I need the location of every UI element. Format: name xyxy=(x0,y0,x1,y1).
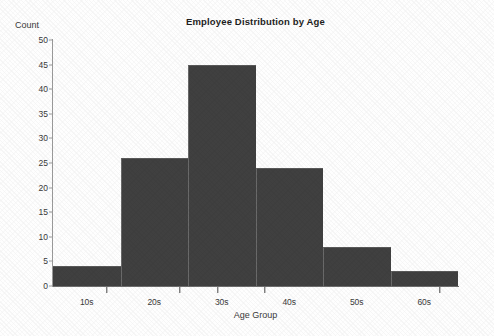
y-tick-label: 50 xyxy=(0,35,48,45)
bar-60s xyxy=(391,271,459,286)
y-tick-label: 15 xyxy=(0,207,48,217)
x-tick-label: 60s xyxy=(417,297,431,307)
bar-30s xyxy=(188,65,256,286)
y-tick-label: 45 xyxy=(0,60,48,70)
x-tick-label: 50s xyxy=(350,297,364,307)
chart-title: Employee Distribution by Age xyxy=(53,16,458,27)
x-tick-mark xyxy=(106,287,107,293)
plot-area xyxy=(53,40,458,286)
chart-figure: Employee Distribution by Age Count 05101… xyxy=(0,0,494,336)
y-tick-mark xyxy=(49,187,52,188)
y-tick-mark xyxy=(49,236,52,237)
x-tick-label: 10s xyxy=(80,297,94,307)
x-axis-label: Age Group xyxy=(53,310,458,320)
y-tick-label: 30 xyxy=(0,133,48,143)
bar-10s xyxy=(53,266,121,286)
y-tick-label: 0 xyxy=(0,281,48,291)
x-tick-mark xyxy=(179,287,180,293)
y-tick-label: 20 xyxy=(0,183,48,193)
x-tick-label: 30s xyxy=(215,297,229,307)
bar-20s xyxy=(121,158,189,286)
x-tick-mark xyxy=(217,287,218,293)
y-tick-label: 10 xyxy=(0,232,48,242)
x-tick-mark xyxy=(439,287,440,293)
y-tick-label: 35 xyxy=(0,109,48,119)
y-tick-mark xyxy=(49,64,52,65)
y-tick-label: 40 xyxy=(0,84,48,94)
x-tick-label: 20s xyxy=(147,297,161,307)
y-tick-label: 5 xyxy=(0,256,48,266)
y-tick-mark xyxy=(49,113,52,114)
y-tick-mark xyxy=(49,212,52,213)
bar-50s xyxy=(323,247,391,286)
y-tick-mark xyxy=(49,163,52,164)
y-tick-label: 25 xyxy=(0,158,48,168)
y-tick-mark xyxy=(49,261,52,262)
y-axis-label: Count xyxy=(15,20,39,30)
y-tick-mark xyxy=(49,286,52,287)
x-tick-label: 40s xyxy=(282,297,296,307)
y-tick-mark xyxy=(49,40,52,41)
bar-40s xyxy=(256,168,324,286)
y-tick-mark xyxy=(49,89,52,90)
y-tick-mark xyxy=(49,138,52,139)
x-tick-mark xyxy=(264,287,265,293)
x-axis-line xyxy=(53,286,459,287)
